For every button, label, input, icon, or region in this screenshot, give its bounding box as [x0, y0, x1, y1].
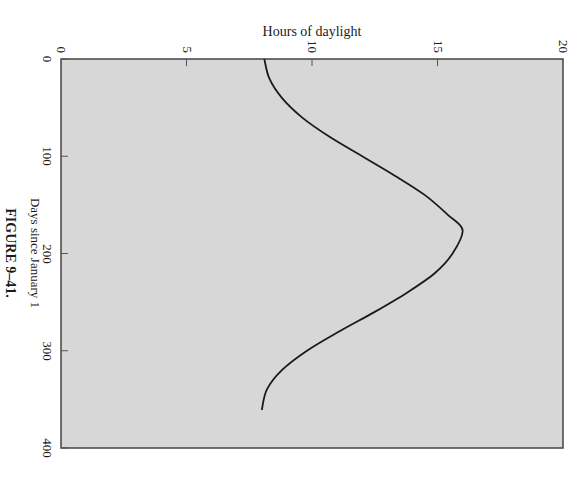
- y-tick-label: 5: [179, 47, 195, 54]
- y-tick-label: 10: [304, 40, 320, 53]
- x-tick-label: 100: [39, 147, 55, 167]
- y-tick-label: 15: [430, 40, 446, 53]
- x-tick-label: 0: [39, 56, 55, 63]
- x-tick-label: 200: [39, 244, 55, 264]
- x-tick-label: 400: [39, 438, 55, 458]
- y-tick-label: 0: [53, 47, 69, 54]
- x-tick-label: 300: [39, 341, 55, 361]
- y-axis-label: Hours of daylight: [263, 24, 362, 40]
- figure-caption: FIGURE 9–41.: [2, 208, 18, 297]
- plot-area: [61, 59, 563, 448]
- chart: [0, 0, 584, 481]
- y-tick-label: 20: [555, 40, 571, 53]
